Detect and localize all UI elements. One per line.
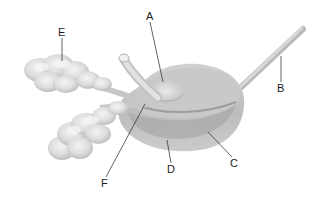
label-a: A — [146, 10, 154, 22]
gland-e — [24, 54, 112, 93]
label-e: E — [58, 26, 65, 38]
gland-lower — [48, 101, 128, 160]
label-f: F — [101, 177, 108, 189]
diagram-canvas: A B C D E F — [0, 0, 334, 200]
label-b: B — [277, 82, 284, 94]
anatomy-diagram: A B C D E F — [0, 0, 334, 200]
label-d: D — [167, 163, 175, 175]
label-c: C — [230, 157, 238, 169]
duct-b — [236, 28, 303, 92]
